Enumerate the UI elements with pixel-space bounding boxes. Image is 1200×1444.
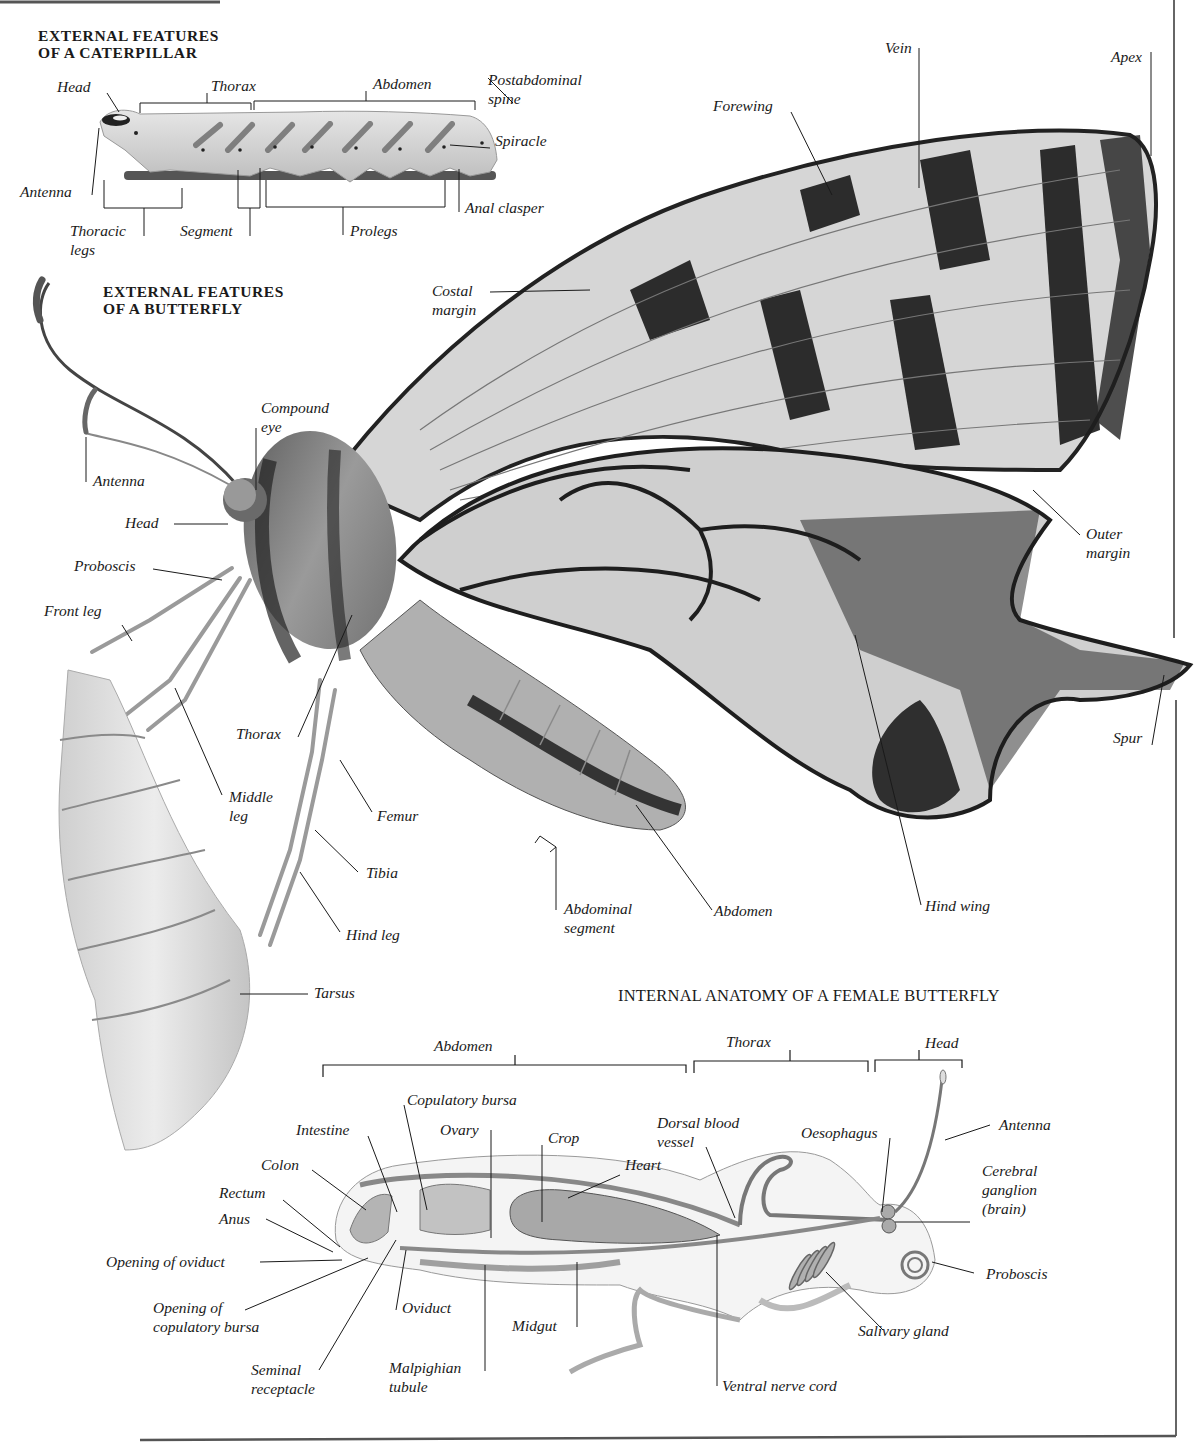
internal-anatomy-heading: INTERNAL ANATOMY OF A FEMALE BUTTERFLY (618, 987, 1000, 1004)
label-malpighian-tubule: Malpighian tubule (389, 1358, 461, 1396)
label-spiracle: Spiracle (495, 131, 547, 150)
label-internal-antenna: Antenna (999, 1115, 1051, 1134)
butterfly-heading: EXTERNAL FEATURES OF A BUTTERFLY (103, 283, 284, 317)
label-copulatory-bursa: Copulatory bursa (407, 1090, 517, 1109)
label-colon: Colon (261, 1155, 299, 1174)
label-line: margin (432, 300, 476, 319)
anatomy-plate: EXTERNAL FEATURES OF A CATERPILLAR EXTER… (0, 0, 1200, 1444)
label-line: segment (564, 918, 632, 937)
label-oesophagus: Oesophagus (801, 1123, 878, 1142)
label-opening-of-oviduct: Opening of oviduct (106, 1252, 225, 1271)
label-region-abdomen: Abdomen (434, 1036, 493, 1055)
label-line: Postabdominal (488, 70, 582, 89)
label-anal-clasper: Anal clasper (465, 198, 544, 217)
label-line: Cerebral (982, 1161, 1037, 1180)
label-line: Abdominal (564, 899, 632, 918)
label-seminal-receptacle: Seminal receptacle (251, 1360, 315, 1398)
label-line: Opening of (153, 1298, 259, 1317)
label-line: copulatory bursa (153, 1317, 259, 1336)
label-femur: Femur (377, 806, 418, 825)
butterfly-heading-line1: EXTERNAL FEATURES (103, 283, 284, 300)
label-crop: Crop (548, 1128, 579, 1147)
label-butterfly-abdomen: Abdomen (714, 901, 773, 920)
caterpillar-heading-line2: OF A CATERPILLAR (38, 44, 219, 61)
label-compound-eye: Compound eye (261, 398, 329, 436)
label-vein: Vein (885, 38, 912, 57)
label-heart: Heart (625, 1155, 661, 1174)
label-forewing: Forewing (713, 96, 773, 115)
label-region-thorax: Thorax (726, 1032, 771, 1051)
label-salivary-gland: Salivary gland (858, 1321, 949, 1340)
label-line: legs (70, 240, 126, 259)
label-thoracic-legs: Thoracic legs (70, 221, 126, 259)
label-caterpillar-head: Head (57, 77, 91, 96)
caterpillar-drawing (100, 110, 497, 182)
label-hind-wing: Hind wing (925, 896, 990, 915)
label-opening-of-copulatory-bursa: Opening of copulatory bursa (153, 1298, 259, 1336)
label-line: Costal (432, 281, 476, 300)
label-rectum: Rectum (219, 1183, 265, 1202)
label-dorsal-blood-vessel: Dorsal blood vessel (657, 1113, 739, 1151)
label-postabdominal-spine: Postabdominal spine (488, 70, 582, 108)
label-tibia: Tibia (366, 863, 398, 882)
label-spur: Spur (1113, 728, 1142, 747)
label-anus: Anus (219, 1209, 250, 1228)
caterpillar-heading-line1: EXTERNAL FEATURES (38, 27, 219, 44)
label-intestine: Intestine (296, 1120, 349, 1139)
label-line: spine (488, 89, 582, 108)
label-segment: Segment (180, 221, 233, 240)
label-caterpillar-thorax: Thorax (211, 76, 256, 95)
label-caterpillar-abdomen: Abdomen (373, 74, 432, 93)
illustration-artwork (0, 0, 1200, 1444)
label-butterfly-thorax: Thorax (236, 724, 281, 743)
label-line: Dorsal blood (657, 1113, 739, 1132)
caterpillar-heading: EXTERNAL FEATURES OF A CATERPILLAR (38, 27, 219, 61)
label-region-head: Head (925, 1033, 959, 1052)
label-apex: Apex (1111, 47, 1142, 66)
label-line: Seminal (251, 1360, 315, 1379)
butterfly-heading-line2: OF A BUTTERFLY (103, 300, 284, 317)
label-line: Outer (1086, 524, 1130, 543)
label-hind-leg: Hind leg (346, 925, 400, 944)
label-caterpillar-antenna: Antenna (20, 182, 72, 201)
label-prolegs: Prolegs (350, 221, 398, 240)
label-line: leg (229, 806, 273, 825)
label-line: (brain) (982, 1199, 1037, 1218)
label-costal-margin: Costal margin (432, 281, 476, 319)
label-outer-margin: Outer margin (1086, 524, 1130, 562)
label-line: Compound (261, 398, 329, 417)
label-line: ganglion (982, 1180, 1037, 1199)
label-line: tubule (389, 1377, 461, 1396)
label-abdominal-segment: Abdominal segment (564, 899, 632, 937)
label-line: vessel (657, 1132, 739, 1151)
label-middle-leg: Middle leg (229, 787, 273, 825)
label-internal-proboscis: Proboscis (986, 1264, 1047, 1283)
label-line: Middle (229, 787, 273, 806)
label-midgut: Midgut (512, 1316, 557, 1335)
label-line: receptacle (251, 1379, 315, 1398)
label-ventral-nerve-cord: Ventral nerve cord (722, 1376, 837, 1395)
label-butterfly-proboscis: Proboscis (74, 556, 135, 575)
label-butterfly-antenna: Antenna (93, 471, 145, 490)
label-ovary: Ovary (440, 1120, 479, 1139)
label-butterfly-head: Head (125, 513, 159, 532)
label-line: eye (261, 417, 329, 436)
label-cerebral-ganglion: Cerebral ganglion (brain) (982, 1161, 1037, 1218)
label-line: Malpighian (389, 1358, 461, 1377)
label-line: Thoracic (70, 221, 126, 240)
label-tarsus: Tarsus (314, 983, 355, 1002)
label-oviduct: Oviduct (402, 1298, 451, 1317)
label-line: margin (1086, 543, 1130, 562)
region-brackets (323, 1050, 962, 1077)
label-front-leg: Front leg (44, 601, 102, 620)
